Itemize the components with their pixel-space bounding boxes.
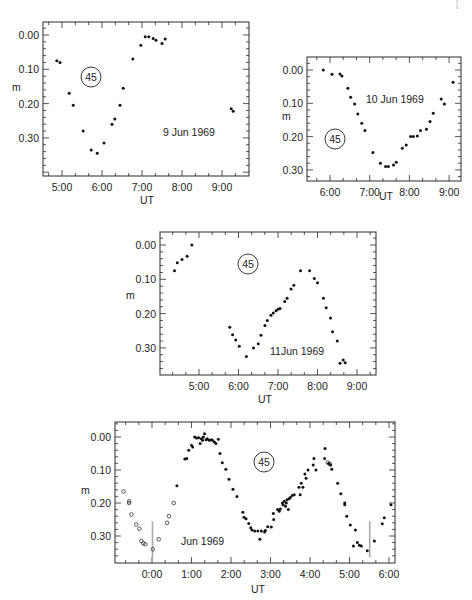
data-point [202,436,205,439]
data-point [113,118,116,121]
data-point [68,92,71,95]
data-point [266,319,269,322]
y-tick-label: 0.00 [283,64,304,76]
y-tick-label: 0.20 [91,497,112,509]
data-point [340,74,343,77]
data-point [228,478,231,481]
data-point [412,135,415,138]
data-point-open [138,527,142,531]
x-tick-label: 6:00 [320,186,341,198]
data-point [366,549,369,552]
data-point [290,287,293,290]
y-tick-label: 0.20 [136,308,157,320]
data-point [432,112,435,115]
data-point [144,35,147,38]
data-point [119,104,122,107]
data-point [270,526,273,529]
data-point [59,61,62,64]
data-point [344,361,347,364]
corner-mark: [ [456,0,459,9]
data-point [228,326,231,329]
data-point [342,358,345,361]
data-point [307,469,310,472]
x-axis-label: UT [251,583,266,595]
data-point [429,120,432,123]
data-point [111,123,114,126]
data-point [147,35,150,38]
data-point [214,442,217,445]
x-tick-label: 5:00 [52,181,73,193]
x-tick-label: 6:00 [92,181,113,193]
data-point [339,362,342,365]
data-point [176,261,179,264]
data-point [360,544,363,547]
y-axis-label: m [126,289,135,301]
data-point [217,438,220,441]
data-point [231,333,234,336]
data-point [203,432,206,435]
data-point [345,515,348,518]
data-point-open [165,521,169,525]
data-point [245,517,248,520]
data-point [232,110,235,113]
y-tick-label: 0.10 [283,97,304,109]
data-point [185,457,188,460]
data-point [218,452,221,455]
y-tick-label: 0.10 [19,63,40,75]
y-tick-label: 0.00 [91,431,112,443]
chart-panel-11-jun-1969: 5:006:007:008:009:000.000.100.200.30UTm4… [126,232,376,405]
data-point [187,449,190,452]
data-point [323,457,326,460]
data-point-open [157,538,161,542]
data-point [287,508,290,511]
data-point [349,96,352,99]
data-point [322,69,325,72]
data-point [260,334,263,337]
circled-label: 45 [258,456,270,468]
x-tick-label: 7:00 [132,181,153,193]
data-point [297,486,300,489]
y-tick-label: 0.30 [19,132,40,144]
data-point [224,468,227,471]
data-point [339,492,342,495]
x-tick-label: 7:00 [359,186,380,198]
x-tick-label: 9:00 [439,186,460,198]
data-point [401,147,404,150]
data-point [313,277,316,280]
x-tick-label: 7:00 [268,380,289,392]
data-point [201,439,204,442]
data-point [272,512,275,515]
data-point [264,529,267,532]
x-tick-label: 6:00 [379,568,400,580]
data-point [329,464,332,467]
data-point [371,151,374,154]
y-axis-label: m [12,81,21,93]
data-point [199,442,202,445]
data-point [96,152,99,155]
y-axis-label: m [282,110,291,122]
data-point [352,544,355,547]
data-point [353,102,356,105]
y-tick-label: 0.30 [283,164,304,176]
data-point [379,162,382,165]
date-annotation: Jun 1969 [181,535,224,547]
data-point [293,493,296,496]
data-point [257,342,260,345]
data-point [336,482,339,485]
chart-panel-9-jun-1969: 5:006:007:008:009:000.000.100.200.30UTm4… [12,22,249,206]
x-tick-label: 8:00 [399,186,420,198]
data-point [312,457,315,460]
y-tick-label: 0.30 [91,530,112,542]
data-point [360,122,363,125]
data-point [316,281,319,284]
x-tick-label: 1:00 [181,568,202,580]
data-point [238,345,241,348]
data-point [190,244,193,247]
data-point [389,503,392,506]
y-tick-label: 0.20 [19,98,40,110]
data-point [256,530,259,533]
data-point [266,525,269,528]
date-annotation: 11Jun 1969 [270,345,324,357]
data-point [90,148,93,151]
circled-label: 45 [242,258,254,270]
